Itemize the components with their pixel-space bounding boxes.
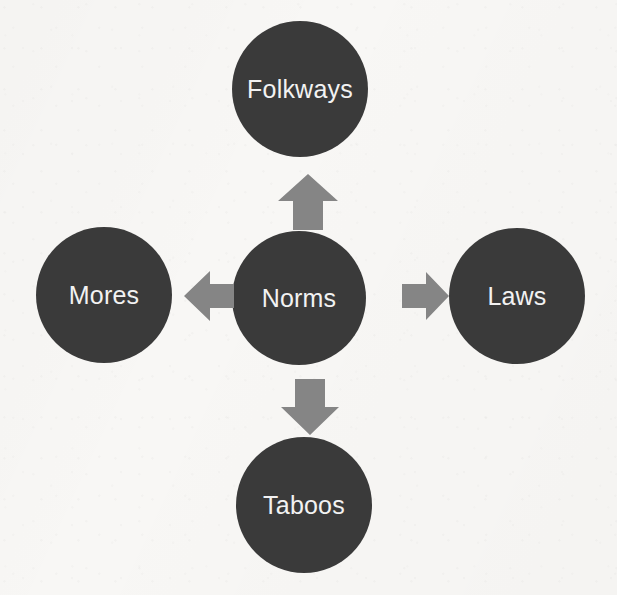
arrow-down-icon bbox=[281, 379, 339, 435]
node-taboos[interactable]: Taboos bbox=[236, 437, 372, 573]
arrow-up-icon bbox=[278, 174, 338, 230]
node-mores[interactable]: Mores bbox=[36, 227, 172, 363]
node-laws[interactable]: Laws bbox=[449, 228, 585, 364]
node-folkways[interactable]: Folkways bbox=[232, 21, 368, 157]
node-norms-center[interactable]: Norms bbox=[232, 231, 366, 365]
node-folkways-label: Folkways bbox=[247, 77, 353, 102]
node-norms-label: Norms bbox=[262, 286, 337, 311]
diagram-canvas: Folkways Mores Norms Laws Taboos bbox=[0, 0, 617, 595]
node-laws-label: Laws bbox=[487, 284, 546, 309]
node-taboos-label: Taboos bbox=[263, 493, 345, 518]
node-mores-label: Mores bbox=[69, 283, 139, 308]
arrow-right-icon bbox=[402, 272, 449, 320]
arrow-left-icon bbox=[184, 271, 234, 321]
